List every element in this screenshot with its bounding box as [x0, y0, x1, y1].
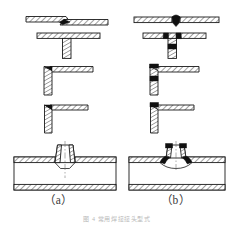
- welded-joint-figure: （a） （b） 图 4 常用焊接接头型式: [0, 0, 234, 227]
- tee-web-plate: [63, 38, 72, 58]
- weld-bead-web: [168, 44, 177, 49]
- main-pipe-top-wall-right: [75, 157, 116, 163]
- main-pipe-top-wall-right: [187, 157, 225, 163]
- tee-flange-plate: [37, 33, 100, 38]
- edge-vertical-arm: [151, 105, 159, 133]
- edge-horizontal-arm: [50, 105, 88, 110]
- tee-flange-plate: [143, 33, 206, 38]
- fillet-weld-left: [163, 33, 169, 39]
- caption-b: （b）: [117, 190, 234, 210]
- caption-row: （a） （b）: [0, 190, 234, 210]
- caption-a: （a）: [0, 190, 117, 210]
- weld-bead-edge: [150, 103, 159, 108]
- main-pipe-top-wall-left: [129, 157, 165, 163]
- figure-title: 图 4 常用焊接接头型式: [0, 214, 234, 224]
- fillet-weld-right: [176, 33, 182, 39]
- plate-left: [134, 17, 172, 23]
- weld-bead-corner-root: [150, 76, 158, 81]
- weld-bead-collar-right: [180, 144, 187, 149]
- edge-horizontal-arm: [156, 105, 194, 110]
- main-pipe-top-wall-left: [14, 157, 55, 163]
- corner-vertical-arm: [44, 67, 52, 96]
- corner-horizontal-arm: [156, 67, 199, 73]
- weld-bead-collar-left: [166, 144, 173, 149]
- corner-horizontal-arm: [50, 67, 93, 73]
- plate-right: [180, 17, 219, 23]
- weld-bead-corner-top: [150, 64, 159, 68]
